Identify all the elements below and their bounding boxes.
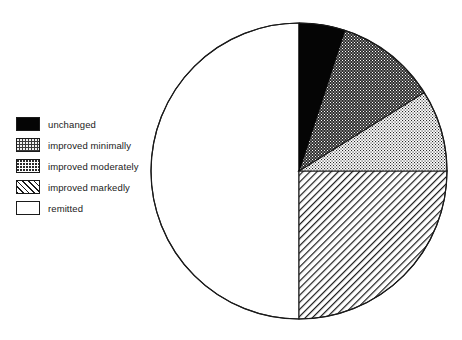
legend: unchanged improved minimally improved mo… [16, 114, 156, 219]
legend-item-improved-minimally: improved minimally [16, 135, 156, 155]
pie-slice-improved-markedly [299, 171, 447, 319]
legend-item-unchanged: unchanged [16, 114, 156, 134]
pie-chart-figure: unchanged improved minimally improved mo… [0, 0, 462, 340]
legend-label: improved minimally [48, 140, 131, 151]
legend-label: improved markedly [48, 182, 130, 193]
pie-slice-remitted [151, 23, 299, 319]
dense-dots-swatch-icon [16, 138, 40, 152]
white-swatch-icon [16, 201, 40, 215]
light-dots-swatch-icon [16, 159, 40, 173]
legend-label: unchanged [48, 119, 96, 130]
legend-item-improved-moderately: improved moderately [16, 156, 156, 176]
solid-black-swatch-icon [16, 117, 40, 131]
legend-label: improved moderately [48, 161, 139, 172]
legend-label: remitted [48, 203, 83, 214]
legend-item-remitted: remitted [16, 198, 156, 218]
diagonal-hatch-swatch-icon [16, 180, 40, 194]
legend-item-improved-markedly: improved markedly [16, 177, 156, 197]
